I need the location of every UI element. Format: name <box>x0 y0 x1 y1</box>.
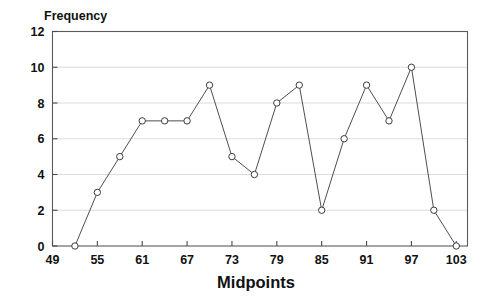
data-point-marker <box>161 118 167 124</box>
x-tick-label-79: 79 <box>270 253 284 267</box>
data-point-marker <box>296 82 302 88</box>
y-tick-label-4: 4 <box>38 168 45 182</box>
y-tick-label-10: 10 <box>31 61 45 75</box>
y-tick-label-0: 0 <box>38 240 45 254</box>
x-tick-label-55: 55 <box>90 253 104 267</box>
x-tick-label-97: 97 <box>404 253 418 267</box>
data-point-marker <box>184 118 190 124</box>
data-point-marker <box>251 171 257 177</box>
x-tick-label-103: 103 <box>446 253 467 267</box>
x-tick-label-73: 73 <box>225 253 239 267</box>
data-point-marker <box>318 207 324 213</box>
data-point-marker <box>229 153 235 159</box>
y-tick-label-2: 2 <box>38 204 45 218</box>
data-point-marker <box>206 82 212 88</box>
y-tick-label-6: 6 <box>38 132 45 146</box>
chart-background <box>0 0 502 303</box>
x-tick-label-85: 85 <box>315 253 329 267</box>
x-tick-label-49: 49 <box>46 253 60 267</box>
x-tick-label-91: 91 <box>360 253 374 267</box>
data-point-marker <box>453 243 459 249</box>
data-point-marker <box>94 189 100 195</box>
data-point-marker <box>431 207 437 213</box>
data-point-marker <box>386 118 392 124</box>
data-point-marker <box>363 82 369 88</box>
frequency-polygon-chart: 024681012 495561677379859197103 Frequenc… <box>0 0 502 303</box>
data-point-marker <box>117 153 123 159</box>
data-point-marker <box>341 136 347 142</box>
data-point-marker <box>274 100 280 106</box>
x-tick-label-67: 67 <box>180 253 194 267</box>
y-tick-label-8: 8 <box>38 97 45 111</box>
y-axis-title: Frequency <box>44 9 107 23</box>
y-tick-label-12: 12 <box>31 25 45 39</box>
x-axis-title: Midpoints <box>217 273 295 291</box>
data-point-marker <box>72 243 78 249</box>
data-point-marker <box>139 118 145 124</box>
x-tick-label-61: 61 <box>135 253 149 267</box>
data-point-marker <box>408 64 414 70</box>
chart-canvas: 024681012 495561677379859197103 Frequenc… <box>0 0 502 303</box>
